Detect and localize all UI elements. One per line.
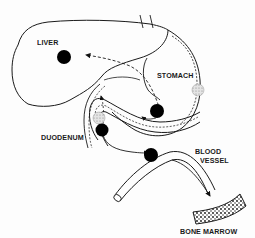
vessel-dot — [144, 148, 158, 162]
duodenum-stippled-dot — [93, 112, 105, 124]
liver-pathway — [86, 55, 160, 110]
bone-marrow-shape — [193, 194, 246, 224]
duodenum-dot — [96, 124, 109, 137]
blood-label: BLOOD — [195, 147, 221, 156]
stomach-label: STOMACH — [157, 71, 194, 80]
stomach-wall-dot — [192, 84, 204, 96]
vessel-label: VESSEL — [200, 156, 229, 165]
bone-marrow-label: BONE MARROW — [180, 227, 237, 236]
liver-label: LIVER — [37, 38, 58, 47]
absorption-diagram: LIVER STOMACH DUODENUM BLOOD VESSEL BONE… — [0, 0, 255, 238]
stomach-dot — [150, 104, 164, 118]
stomach-outline — [112, 30, 200, 136]
duodenum-label: DUODENUM — [41, 133, 84, 142]
diagram-drawing — [0, 0, 255, 238]
liver-dot — [57, 50, 71, 64]
